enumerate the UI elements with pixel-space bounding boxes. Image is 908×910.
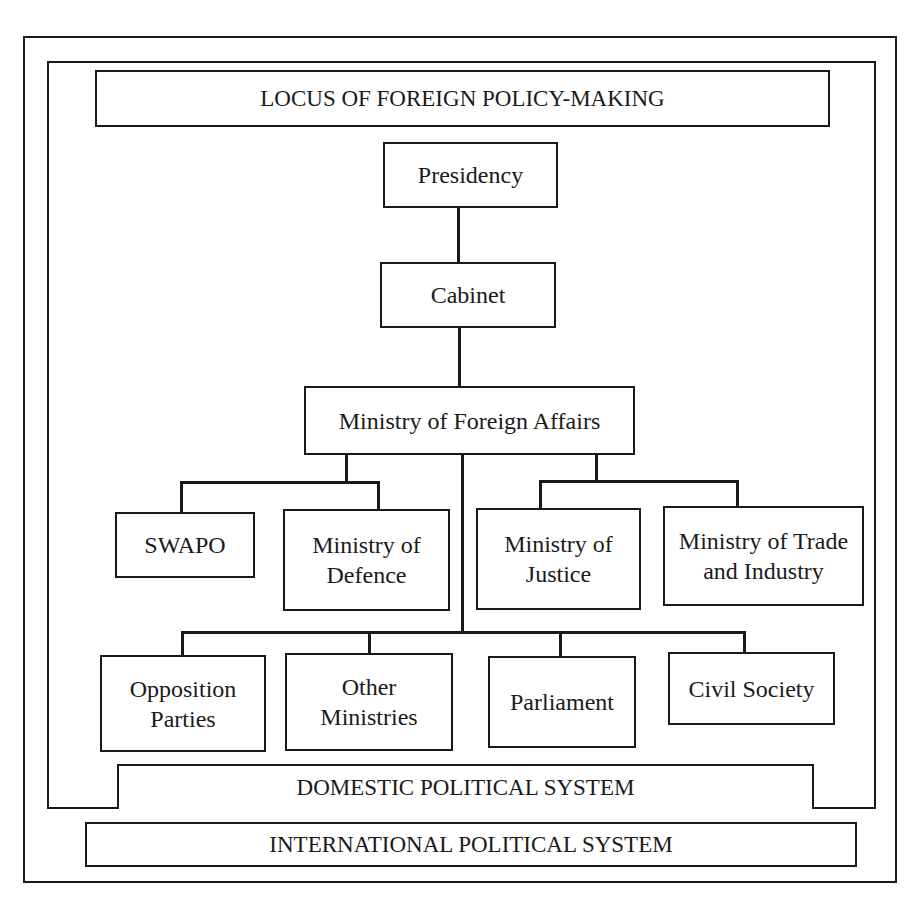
connector-cabinet-mofa bbox=[458, 328, 461, 386]
node-opposition-parties: Opposition Parties bbox=[100, 655, 266, 752]
domestic-system-label-box: DOMESTIC POLITICAL SYSTEM bbox=[117, 764, 814, 809]
connector-right-bar bbox=[539, 480, 739, 483]
node-presidency: Presidency bbox=[383, 142, 558, 208]
node-defence-label: Ministry of Defence bbox=[312, 530, 421, 590]
node-trade-label: Ministry of Trade and Industry bbox=[679, 526, 848, 586]
node-ministry-of-justice: Ministry of Justice bbox=[476, 508, 641, 610]
node-ministry-of-trade-and-industry: Ministry of Trade and Industry bbox=[663, 506, 864, 606]
node-presidency-label: Presidency bbox=[418, 160, 523, 190]
connector-mofa-left-drop bbox=[345, 455, 348, 482]
node-cabinet: Cabinet bbox=[380, 262, 556, 328]
connector-swapo-drop bbox=[180, 481, 183, 513]
connector-mofa-center-trunk bbox=[461, 455, 464, 632]
locus-title: LOCUS OF FOREIGN POLICY-MAKING bbox=[260, 84, 664, 114]
node-opposition-label: Opposition Parties bbox=[130, 674, 237, 734]
connector-justice-drop bbox=[539, 480, 542, 510]
node-other-ministries: Other Ministries bbox=[285, 653, 453, 751]
connector-bottom-bar bbox=[181, 631, 746, 634]
node-justice-label: Ministry of Justice bbox=[504, 529, 613, 589]
domestic-system-label: DOMESTIC POLITICAL SYSTEM bbox=[297, 773, 635, 803]
connector-left-bar bbox=[180, 481, 380, 484]
node-ministry-of-defence: Ministry of Defence bbox=[283, 509, 450, 611]
connector-parliament-drop bbox=[559, 631, 562, 656]
locus-title-box: LOCUS OF FOREIGN POLICY-MAKING bbox=[95, 70, 830, 127]
connector-opposition-drop bbox=[181, 631, 184, 655]
node-swapo-label: SWAPO bbox=[144, 530, 225, 560]
node-swapo: SWAPO bbox=[115, 512, 255, 578]
connector-mofa-right-drop bbox=[595, 455, 598, 482]
connector-other-ministries-drop bbox=[368, 631, 371, 653]
international-system-label-box: INTERNATIONAL POLITICAL SYSTEM bbox=[85, 822, 857, 867]
node-parliament-label: Parliament bbox=[510, 687, 614, 717]
connector-trade-drop bbox=[736, 480, 739, 508]
node-civil-society: Civil Society bbox=[668, 652, 835, 725]
node-ministry-of-foreign-affairs: Ministry of Foreign Affairs bbox=[304, 386, 635, 455]
node-mofa-label: Ministry of Foreign Affairs bbox=[339, 406, 601, 436]
node-parliament: Parliament bbox=[488, 656, 636, 748]
connector-defence-drop bbox=[377, 481, 380, 511]
node-civil-society-label: Civil Society bbox=[689, 674, 815, 704]
connector-presidency-cabinet bbox=[457, 208, 460, 263]
international-system-label: INTERNATIONAL POLITICAL SYSTEM bbox=[269, 830, 672, 860]
node-cabinet-label: Cabinet bbox=[431, 280, 506, 310]
node-other-ministries-label: Other Ministries bbox=[320, 672, 417, 732]
connector-civil-society-drop bbox=[743, 631, 746, 653]
